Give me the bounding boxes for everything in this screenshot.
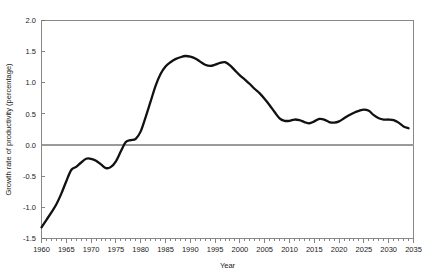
- x-tick-label: 1965: [58, 245, 75, 254]
- y-tick-label: -1.0: [23, 203, 36, 212]
- x-tick-label: 1980: [132, 245, 149, 254]
- chart-background: [0, 0, 433, 278]
- x-tick-label: 1970: [83, 245, 100, 254]
- y-tick-label: 0.0: [26, 141, 36, 150]
- productivity-growth-chart: -1.5-1.0-0.50.00.51.01.52.0 196019651970…: [0, 0, 433, 278]
- y-tick-label: 2.0: [26, 16, 36, 25]
- x-tick-label: 2000: [232, 245, 249, 254]
- x-tick-label: 2005: [256, 245, 273, 254]
- x-tick-label: 1990: [182, 245, 199, 254]
- x-tick-label: 1995: [207, 245, 224, 254]
- y-tick-label: 1.0: [26, 78, 36, 87]
- y-axis-title: Growth rate of productivity (percentage): [4, 63, 13, 196]
- x-tick-label: 2030: [380, 245, 397, 254]
- x-tick-label: 1960: [33, 245, 50, 254]
- x-tick-label: 1975: [108, 245, 125, 254]
- y-tick-label: -1.5: [23, 234, 36, 243]
- x-tick-label: 1985: [157, 245, 174, 254]
- y-tick-label: -0.5: [23, 172, 36, 181]
- x-axis-title: Year: [220, 261, 236, 270]
- x-tick-label: 2025: [356, 245, 373, 254]
- y-tick-label: 1.5: [26, 47, 36, 56]
- x-tick-label: 2010: [281, 245, 298, 254]
- x-tick-label: 2015: [306, 245, 323, 254]
- x-tick-label: 2035: [405, 245, 422, 254]
- y-tick-label: 0.5: [26, 110, 36, 119]
- x-tick-label: 2020: [331, 245, 348, 254]
